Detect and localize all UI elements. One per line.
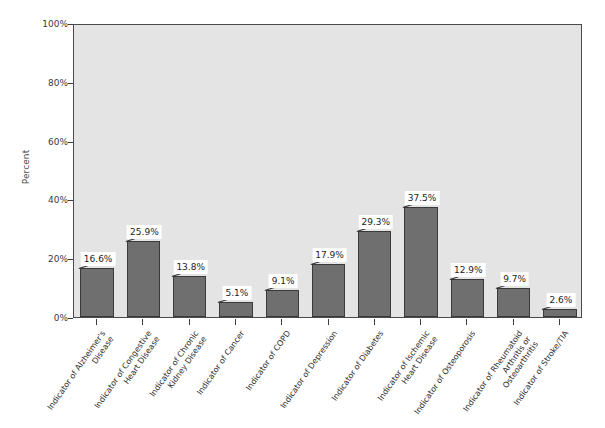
- bar[interactable]: [173, 276, 206, 317]
- x-axis-tick-mark: [281, 319, 282, 325]
- x-axis-tick-mark: [96, 319, 97, 325]
- x-axis-tick-mark: [374, 319, 375, 325]
- bar[interactable]: [312, 264, 345, 317]
- value-label: 17.9%: [312, 248, 347, 262]
- x-axis-tick-mark: [466, 319, 467, 325]
- bar[interactable]: [219, 302, 252, 317]
- bar[interactable]: [451, 279, 484, 317]
- value-label: 13.8%: [173, 260, 208, 274]
- bar[interactable]: [404, 207, 437, 317]
- x-axis-tick-mark: [328, 319, 329, 325]
- value-label: 2.6%: [546, 293, 575, 307]
- bar[interactable]: [80, 268, 113, 317]
- value-label: 37.5%: [405, 191, 440, 205]
- value-label: 9.7%: [500, 272, 529, 286]
- bar-chart: Percent 0%20%40%60%80%100% Indicator of …: [0, 0, 605, 428]
- value-label: 9.1%: [269, 274, 298, 288]
- x-axis-category-label-line: Heart Disease: [372, 334, 439, 425]
- x-axis-category-label-line: Arthritis or: [465, 334, 532, 425]
- x-axis-tick-mark: [189, 319, 190, 325]
- bar[interactable]: [266, 290, 299, 317]
- x-axis-tick-mark: [420, 319, 421, 325]
- bar[interactable]: [497, 288, 530, 317]
- y-axis-tick-label: 0%: [30, 313, 68, 323]
- x-axis-tick-mark: [235, 319, 236, 325]
- value-label: 12.9%: [451, 263, 486, 277]
- x-axis-tick-mark: [559, 319, 560, 325]
- value-label: 5.1%: [223, 286, 252, 300]
- y-axis-tick-label: 80%: [30, 78, 68, 88]
- bar[interactable]: [543, 309, 576, 317]
- bar[interactable]: [358, 231, 391, 317]
- x-axis-tick-mark: [142, 319, 143, 325]
- value-label: 29.3%: [358, 215, 393, 229]
- value-label: 16.6%: [81, 252, 116, 266]
- y-axis-tick-label: 20%: [30, 254, 68, 264]
- value-label: 25.9%: [127, 225, 162, 239]
- y-axis-tick-mark: [68, 318, 73, 319]
- y-axis-tick-labels: 0%20%40%60%80%100%: [26, 0, 68, 428]
- y-axis-tick-label: 100%: [30, 19, 68, 29]
- x-axis-tick-mark: [513, 319, 514, 325]
- bar[interactable]: [127, 241, 160, 317]
- y-axis-tick-label: 60%: [30, 137, 68, 147]
- y-axis-tick-label: 40%: [30, 195, 68, 205]
